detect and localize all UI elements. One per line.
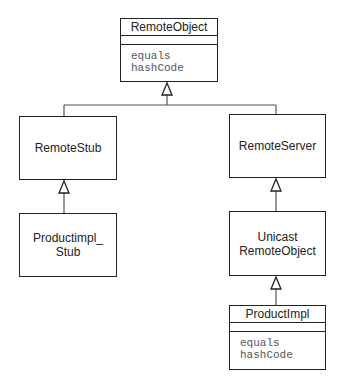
class-productimpl: ProductImpl equals hashCode (229, 305, 326, 370)
class-name: RemoteStub (35, 141, 102, 155)
class-remoteobject: RemoteObject equals hashCode (120, 18, 218, 82)
class-attributes (121, 36, 217, 45)
method: equals (131, 50, 217, 62)
class-attributes (230, 323, 325, 332)
class-name-line: Unicast (257, 230, 297, 244)
class-name-line: RemoteObject (239, 244, 316, 258)
class-name: RemoteObject (121, 19, 217, 36)
class-productimpl-stub: Productimpl_ Stub (19, 213, 117, 277)
class-name-line: Productimpl_ (33, 231, 103, 245)
class-name: RemoteServer (239, 139, 316, 153)
class-remotestub: RemoteStub (19, 116, 117, 180)
class-methods: equals hashCode (230, 332, 325, 361)
generalization-arrow-icon (59, 181, 69, 193)
generalization-arrow-icon (271, 179, 281, 191)
class-name-line: Stub (56, 245, 81, 259)
class-unicastremoteobject: Unicast RemoteObject (229, 211, 326, 276)
generalization-arrow-icon (271, 277, 281, 289)
method: hashCode (131, 62, 217, 74)
class-name: ProductImpl (230, 306, 325, 323)
method: hashCode (240, 349, 325, 361)
class-methods: equals hashCode (121, 45, 217, 74)
method: equals (240, 337, 325, 349)
class-remoteserver: RemoteServer (229, 114, 326, 178)
generalization-arrow-icon (162, 83, 172, 95)
